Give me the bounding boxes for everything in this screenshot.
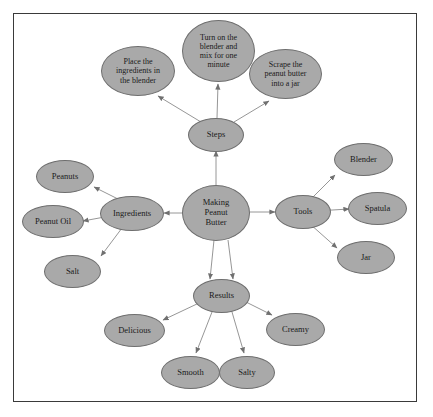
node-step-blend-line-3: mix for one xyxy=(186,51,251,60)
node-center[interactable]: Making Peanut Butter xyxy=(182,185,250,241)
node-ingredients[interactable]: Ingredients xyxy=(100,196,164,231)
edge-center-results-2 xyxy=(228,240,233,279)
node-peanut-oil-label: Peanut Oil xyxy=(26,217,80,227)
node-step-place[interactable]: Place the ingredients in the blender xyxy=(101,46,175,96)
node-peanuts[interactable]: Peanuts xyxy=(36,160,94,193)
node-blender[interactable]: Blender xyxy=(334,143,393,176)
node-ingredients-label: Ingredients xyxy=(104,209,160,219)
node-salty[interactable]: Salty xyxy=(219,356,275,389)
node-jar[interactable]: Jar xyxy=(337,241,395,274)
edge-results-salty xyxy=(232,312,244,353)
edge-steps-blend xyxy=(217,84,218,118)
node-peanuts-label: Peanuts xyxy=(40,172,90,182)
node-step-scrape-line-1: Scrape the xyxy=(253,60,318,69)
node-creamy-label: Creamy xyxy=(270,325,321,335)
node-peanut-oil[interactable]: Peanut Oil xyxy=(22,205,84,238)
node-tools[interactable]: Tools xyxy=(275,195,331,229)
node-step-scrape-line-3: into a jar xyxy=(253,79,318,88)
node-blender-label: Blender xyxy=(338,155,389,165)
edge-results-smooth xyxy=(196,312,212,353)
node-tools-label: Tools xyxy=(279,207,327,217)
edge-results-creamy xyxy=(246,302,272,315)
node-creamy[interactable]: Creamy xyxy=(266,313,325,346)
node-smooth-label: Smooth xyxy=(165,368,216,378)
node-salty-label: Salty xyxy=(223,368,271,378)
node-spatula[interactable]: Spatula xyxy=(348,192,407,225)
node-step-place-line-3: the blender xyxy=(105,76,171,85)
node-delicious[interactable]: Delicious xyxy=(104,314,165,347)
node-jar-label: Jar xyxy=(341,253,391,263)
node-step-scrape-line-2: peanut butter xyxy=(253,69,318,78)
node-steps-label: Steps xyxy=(192,130,240,140)
node-delicious-label: Delicious xyxy=(108,326,161,336)
node-spatula-label: Spatula xyxy=(352,204,403,214)
edge-results-delicious xyxy=(163,303,199,320)
node-step-blend-line-1: Turn on the xyxy=(186,33,251,42)
edge-steps-place xyxy=(158,96,201,122)
node-step-blend-line-4: minute xyxy=(186,60,251,69)
edge-center-results xyxy=(210,240,214,279)
node-center-line-3: Butter xyxy=(186,218,246,228)
node-step-scrape[interactable]: Scrape the peanut butter into a jar xyxy=(249,49,322,99)
node-step-blend[interactable]: Turn on the blender and mix for one minu… xyxy=(182,20,255,82)
node-results-label: Results xyxy=(197,291,246,301)
node-steps[interactable]: Steps xyxy=(188,118,244,152)
edge-steps-scrape xyxy=(234,101,269,122)
mindmap-canvas: Making Peanut Butter Steps Place the ing… xyxy=(0,0,433,417)
node-step-place-line-1: Place the xyxy=(105,57,171,66)
node-step-blend-line-2: blender and xyxy=(186,42,251,51)
node-results[interactable]: Results xyxy=(193,279,250,313)
edge-ingredients-salt xyxy=(101,228,122,256)
node-salt-label: Salt xyxy=(48,267,97,277)
node-salt[interactable]: Salt xyxy=(44,255,101,288)
node-step-place-line-2: ingredients in xyxy=(105,66,171,75)
node-smooth[interactable]: Smooth xyxy=(161,356,220,389)
